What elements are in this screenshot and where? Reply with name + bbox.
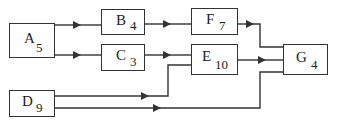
edge-d-g xyxy=(55,72,283,108)
node-label: F xyxy=(206,11,214,28)
node-g: G 4 xyxy=(283,44,328,75)
node-duration: 9 xyxy=(36,100,43,116)
node-label: C xyxy=(116,47,126,64)
node-duration: 4 xyxy=(311,57,318,73)
node-duration: 10 xyxy=(215,57,228,73)
node-f: F 7 xyxy=(191,8,238,35)
node-b: B 4 xyxy=(101,9,145,35)
node-label: E xyxy=(202,48,211,65)
node-e: E 10 xyxy=(191,44,238,75)
node-label: D xyxy=(22,93,33,110)
node-label: A xyxy=(24,30,35,47)
node-a: A 5 xyxy=(9,23,55,58)
node-d: D 9 xyxy=(9,90,55,117)
node-duration: 4 xyxy=(130,18,137,34)
node-duration: 5 xyxy=(36,40,43,56)
node-duration: 7 xyxy=(219,18,226,34)
node-duration: 3 xyxy=(130,54,137,70)
node-label: B xyxy=(116,12,126,29)
edge-f-g xyxy=(238,24,283,47)
node-label: G xyxy=(296,49,307,66)
node-c: C 3 xyxy=(101,44,145,71)
